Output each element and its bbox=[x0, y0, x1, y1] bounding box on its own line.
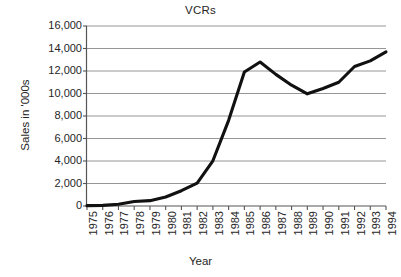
x-tick-mark-group bbox=[87, 206, 386, 210]
vcr-sales-line-chart: VCRs Sales in '000s Year 16,00014,00012,… bbox=[0, 0, 401, 277]
gridline-group bbox=[87, 26, 386, 184]
plot-area bbox=[0, 0, 401, 277]
data-series-line bbox=[87, 52, 386, 206]
